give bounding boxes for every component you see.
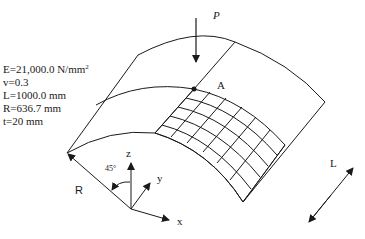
angle-label: 45° <box>105 164 116 173</box>
y-axis-label: y <box>157 172 163 184</box>
length-label: L <box>330 157 337 169</box>
x-axis-icon <box>131 209 169 220</box>
y-axis-icon <box>131 183 150 209</box>
shell-diagram <box>0 0 365 239</box>
point-a-marker <box>192 87 197 92</box>
x-axis-label: x <box>177 215 183 227</box>
mid-arc <box>96 87 194 105</box>
generator-line <box>194 42 235 89</box>
radius-label: R <box>75 184 83 196</box>
point-a-label: A <box>217 79 225 91</box>
left-edge <box>67 55 138 153</box>
radius-arrow-icon <box>68 154 131 209</box>
length-arrow-start-icon <box>309 195 331 222</box>
mesh-outline <box>155 89 285 202</box>
angle-arc-icon <box>112 182 130 190</box>
front-edge-arc <box>67 132 243 202</box>
z-axis-label: z <box>126 147 131 159</box>
load-label: P <box>213 9 220 21</box>
